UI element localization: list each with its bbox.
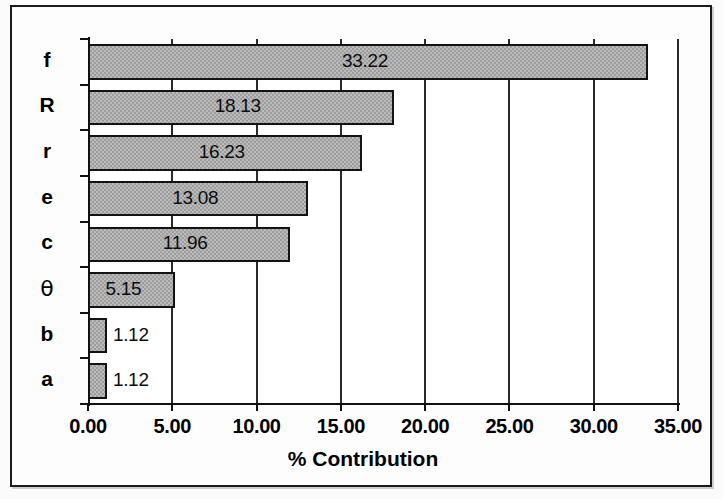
bar-value-label: 18.13: [215, 95, 261, 117]
plot-area: 33.2218.1316.2313.0811.965.151.121.12: [88, 39, 678, 404]
y-axis-tick: [80, 38, 89, 40]
category-label-r: r: [16, 139, 78, 163]
x-axis-tick-5: [171, 404, 173, 411]
y-axis-tick: [80, 175, 89, 177]
gridline-35: [677, 39, 679, 404]
category-label-b: b: [16, 322, 78, 346]
gridline-20: [424, 39, 426, 404]
x-axis-title: % Contribution: [12, 447, 714, 471]
x-axis-line: [88, 403, 680, 405]
y-axis-tick: [80, 84, 89, 86]
y-axis-tick: [80, 129, 89, 131]
x-axis-tick-15: [340, 404, 342, 411]
bar-b[interactable]: [88, 318, 107, 354]
bar-value-label: 13.08: [172, 187, 218, 209]
x-tick-label-35: 35.00: [623, 415, 723, 438]
x-axis-tick-0: [87, 404, 89, 411]
gridline-25: [508, 39, 510, 404]
category-label-c: c: [16, 230, 78, 254]
y-axis-tick: [80, 357, 89, 359]
screenshot-root: 33.2218.1316.2313.0811.965.151.121.12 fR…: [0, 0, 723, 499]
bar-value-label: 16.23: [199, 141, 245, 163]
bar-value-label: 1.12: [113, 324, 149, 346]
y-axis-tick: [80, 312, 89, 314]
y-axis-tick: [80, 266, 89, 268]
chart-frame: 33.2218.1316.2313.0811.965.151.121.12 fR…: [10, 5, 712, 487]
x-axis-tick-10: [256, 404, 258, 411]
bar-value-label: 5.15: [105, 278, 141, 300]
x-axis-tick-35: [677, 404, 679, 411]
bar-value-label: 33.22: [342, 50, 388, 72]
x-axis-tick-30: [593, 404, 595, 411]
bar-value-label: 1.12: [113, 369, 149, 391]
bar-value-label: 11.96: [163, 232, 208, 254]
x-axis-tick-25: [508, 404, 510, 411]
category-label-f: f: [16, 48, 78, 72]
gridline-30: [593, 39, 595, 404]
y-axis-tick: [80, 221, 89, 223]
category-label-theta: θ: [16, 276, 78, 301]
bar-a[interactable]: [88, 363, 107, 399]
category-label-R: R: [16, 93, 78, 117]
category-label-a: a: [16, 367, 78, 391]
category-label-e: e: [16, 185, 78, 209]
x-axis-tick-20: [424, 404, 426, 411]
